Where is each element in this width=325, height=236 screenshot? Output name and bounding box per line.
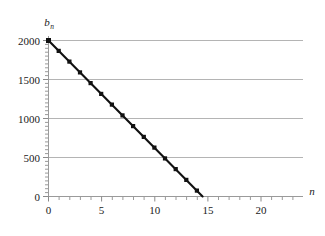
x-tick-label-5: 5: [99, 204, 105, 216]
y-tick-label-500: 500: [24, 152, 41, 164]
data-point: [46, 38, 51, 43]
x-tick-label-0: 0: [46, 204, 52, 216]
x-tick-label-10: 10: [149, 204, 161, 216]
data-point: [99, 92, 103, 96]
chart-figure: 2000 1500 1000 500 0 0 5 10 15 20 b n n: [0, 0, 325, 236]
data-point: [152, 146, 156, 150]
data-point: [174, 167, 178, 171]
data-point: [131, 124, 135, 128]
x-axis-label: n: [309, 185, 315, 197]
data-point: [120, 113, 124, 117]
chart-canvas: 2000 1500 1000 500 0 0 5 10 15 20 b n n: [0, 0, 325, 236]
y-tick-label-0: 0: [35, 191, 41, 203]
y-tick-label-1500: 1500: [18, 74, 41, 86]
data-point: [89, 81, 93, 85]
x-tick-label-15: 15: [202, 204, 214, 216]
data-point: [184, 178, 188, 182]
data-point: [142, 135, 146, 139]
data-point: [163, 156, 167, 160]
data-point: [57, 49, 61, 53]
x-tick-label-20: 20: [256, 204, 268, 216]
data-point: [78, 70, 82, 74]
data-point: [67, 60, 71, 64]
data-point: [110, 103, 114, 107]
data-point: [195, 189, 199, 193]
y-axis-label-subscript: n: [50, 22, 54, 31]
y-tick-label-1000: 1000: [18, 113, 41, 125]
y-tick-label-2000: 2000: [18, 35, 41, 47]
